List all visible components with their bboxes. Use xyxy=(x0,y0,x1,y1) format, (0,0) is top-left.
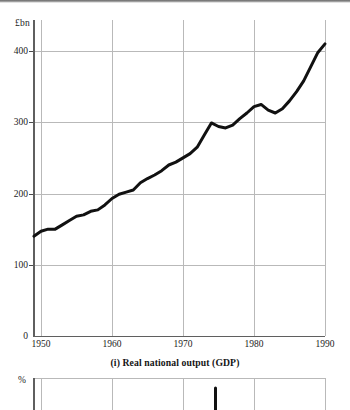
page-root: £bn 400 300 200 100 0 1950 1960 1970 198… xyxy=(0,0,350,410)
gdp-series-line xyxy=(0,4,350,356)
scan-edge-artifact xyxy=(0,0,350,3)
chart-percent-partial xyxy=(0,374,350,410)
chart-caption: (i) Real national output (GDP) xyxy=(0,357,350,368)
chart2-series-line xyxy=(0,374,350,410)
chart-gdp: £bn 400 300 200 100 0 1950 1960 1970 198… xyxy=(0,4,350,356)
